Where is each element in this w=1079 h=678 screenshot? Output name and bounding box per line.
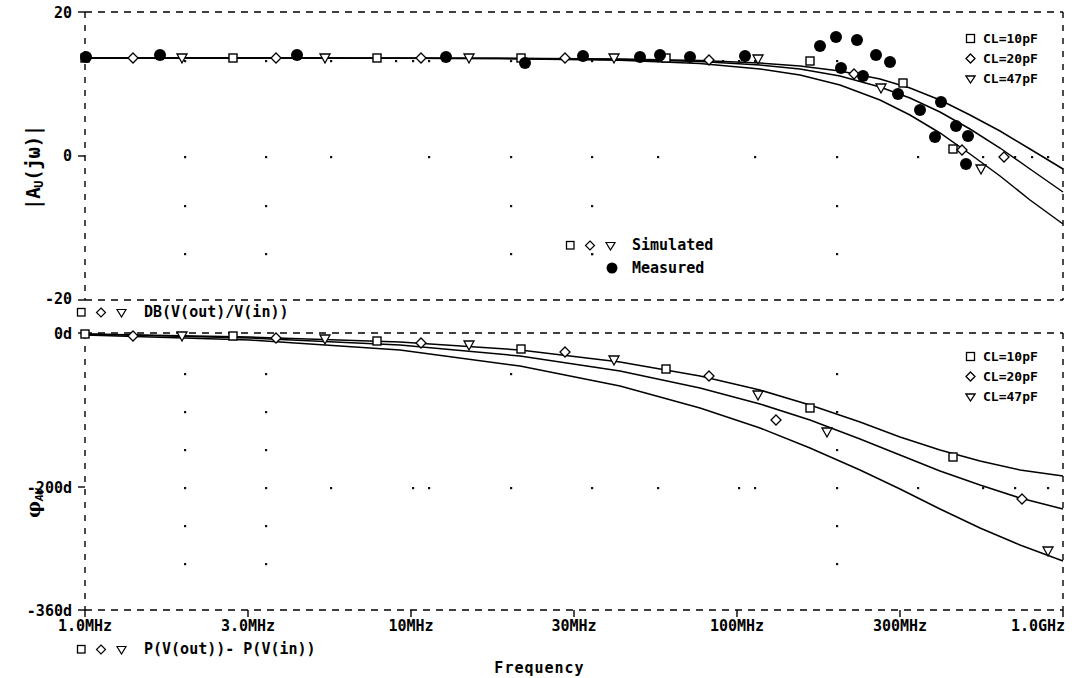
square-marker-icon [965,351,976,362]
xtick-3-0mhz: 3.0MHz [198,617,298,635]
phase-trace-label-row: P(V(out))- P(V(in)) [76,640,316,658]
square-marker-icon [965,33,976,44]
xtick-1-0mhz: 1.0MHz [35,617,135,635]
gain-curve-cl20 [85,58,1063,192]
diamond-marker-icon [965,53,976,64]
inner-legend-label-measured: Measured [632,259,704,277]
phase-curve-cl10 [85,334,1063,476]
phase-legend: CL=10pF CL=20pF CL=47pF [965,346,1038,406]
gain-markers-cl20 [128,53,1009,162]
gain-panel: |AU(jω)| 20 0 -20 [0,0,1079,318]
phase-panel: φAU 0d -200d -360d [0,318,1079,678]
inner-legend-label-simulated: Simulated [632,236,713,254]
xtick-10mhz: 10MHz [361,617,461,635]
diamond-marker-icon [965,371,976,382]
xtick-300mhz: 300MHz [850,617,950,635]
gain-grid-dots [184,60,1049,255]
phase-trace-label: P(V(out))- P(V(in)) [144,640,316,658]
gain-legend-label-cl20: CL=20pF [983,51,1038,66]
phase-trace-markers-icon [76,643,134,655]
phase-legend-item-cl10: CL=10pF [965,346,1038,366]
triangle-down-marker-icon [965,73,976,84]
gain-legend-item-cl47: CL=47pF [965,68,1038,88]
phase-legend-label-cl47: CL=47pF [983,389,1038,404]
phase-curve-cl20 [85,334,1063,509]
xtick-30mhz: 30MHz [524,617,624,635]
gain-plot-canvas [0,0,1079,318]
inner-legend-item-simulated: Simulated [565,234,713,256]
gain-inner-legend: Simulated Measured [565,234,713,280]
phase-legend-label-cl10: CL=10pF [983,349,1038,364]
gain-legend-item-cl20: CL=20pF [965,48,1038,68]
gain-legend: CL=10pF CL=20pF CL=47pF [965,28,1038,88]
phase-legend-item-cl20: CL=20pF [965,366,1038,386]
phase-legend-label-cl20: CL=20pF [983,369,1038,384]
phase-markers-cl10 [81,330,957,461]
gain-simulated-curves [85,58,1063,224]
inner-legend-item-measured: Measured [603,256,713,280]
gain-legend-label-cl47: CL=47pF [983,71,1038,86]
phase-grid-dots [184,373,1049,565]
measured-marker-icon [603,261,623,275]
gain-curve-cl47 [85,58,1063,224]
phase-simulated-curves [85,334,1063,561]
simulated-markers-icon [565,239,623,251]
phase-curve-cl47 [85,335,1063,561]
xtick-1-0ghz: 1.0GHz [1000,617,1076,635]
gain-measured-points [80,31,974,170]
xtick-100mhz: 100MHz [687,617,787,635]
bode-plot-figure: |AU(jω)| 20 0 -20 [0,0,1079,678]
gain-trace-markers-icon [76,306,134,318]
x-axis-title: Frequency [0,659,1079,677]
triangle-down-marker-icon [965,391,976,402]
gain-legend-label-cl10: CL=10pF [983,31,1038,46]
gain-legend-item-cl10: CL=10pF [965,28,1038,48]
phase-legend-item-cl47: CL=47pF [965,386,1038,406]
